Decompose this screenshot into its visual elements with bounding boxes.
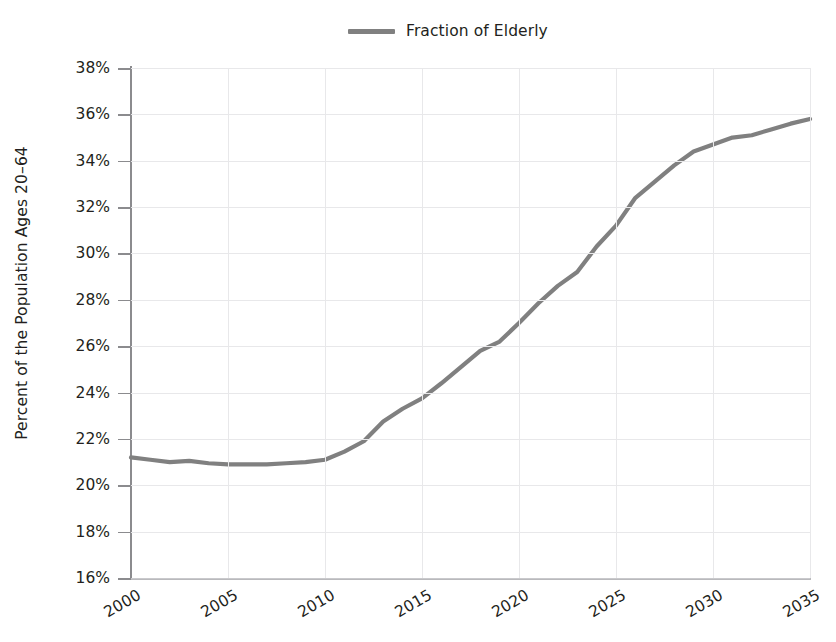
- y-axis-tick-label: 18%: [52, 523, 110, 541]
- y-axis-tick: [118, 346, 131, 348]
- gridline-horizontal: [131, 439, 810, 440]
- data-line-fraction-of-elderly: [131, 119, 810, 464]
- gridline-vertical: [713, 68, 714, 578]
- gridline-vertical: [810, 68, 811, 578]
- gridline-horizontal: [131, 532, 810, 533]
- gridline-horizontal: [131, 300, 810, 301]
- x-axis-tick-label: 2030: [672, 586, 726, 628]
- gridline-horizontal: [131, 68, 810, 69]
- gridline-horizontal: [131, 346, 810, 347]
- y-axis-tick-label: 38%: [52, 59, 110, 77]
- y-axis-tick: [118, 253, 131, 255]
- y-axis-tick: [118, 532, 131, 534]
- y-axis-tick: [118, 207, 131, 209]
- gridline-horizontal: [131, 161, 810, 162]
- line-chart: Fraction of Elderly Percent of the Popul…: [0, 0, 836, 642]
- y-axis-tick-label: 24%: [52, 384, 110, 402]
- y-axis-tick: [118, 578, 131, 580]
- legend-label-fraction-of-elderly: Fraction of Elderly: [406, 22, 548, 40]
- y-axis-tick-label: 20%: [52, 476, 110, 494]
- gridline-horizontal: [131, 253, 810, 254]
- y-axis-tick-label: 36%: [52, 105, 110, 123]
- y-axis-tick-label: 32%: [52, 198, 110, 216]
- y-axis-tick-labels: 38%36%34%32%30%28%26%24%22%20%18%16%: [50, 0, 110, 642]
- gridline-horizontal: [131, 393, 810, 394]
- y-axis-tick-label: 22%: [52, 430, 110, 448]
- gridline-horizontal: [131, 207, 810, 208]
- chart-legend: Fraction of Elderly: [348, 22, 548, 40]
- x-axis-tick-label: 2025: [575, 586, 629, 628]
- y-axis-tick: [118, 439, 131, 441]
- y-axis-tick-label: 26%: [52, 337, 110, 355]
- series-line-fraction-of-elderly: [131, 68, 810, 578]
- y-axis-tick-label: 34%: [52, 152, 110, 170]
- y-axis-tick-label: 30%: [52, 244, 110, 262]
- y-axis-tick: [118, 393, 131, 395]
- gridline-vertical: [616, 68, 617, 578]
- x-axis-tick-label: 2005: [187, 586, 241, 628]
- gridline-vertical: [422, 68, 423, 578]
- gridline-horizontal: [131, 578, 810, 579]
- y-axis-tick: [118, 485, 131, 487]
- y-axis-tick: [118, 114, 131, 116]
- x-axis-tick-label: 2020: [478, 586, 532, 628]
- gridline-vertical: [325, 68, 326, 578]
- gridline-horizontal: [131, 114, 810, 115]
- x-axis-tick-label: 2015: [381, 586, 435, 628]
- y-axis-tick: [118, 68, 131, 70]
- x-axis-tick-label: 2035: [769, 586, 823, 628]
- gridline-vertical: [228, 68, 229, 578]
- y-axis-title: Percent of the Population Ages 20–64: [13, 83, 31, 503]
- gridline-horizontal: [131, 485, 810, 486]
- legend-swatch-fraction-of-elderly: [348, 29, 395, 34]
- y-axis-tick: [118, 300, 131, 302]
- x-axis-tick-label: 2010: [284, 586, 338, 628]
- y-axis-tick-label: 16%: [52, 569, 110, 587]
- plot-area: [131, 68, 810, 578]
- y-axis-tick-label: 28%: [52, 291, 110, 309]
- gridline-vertical: [519, 68, 520, 578]
- y-axis-tick: [118, 161, 131, 163]
